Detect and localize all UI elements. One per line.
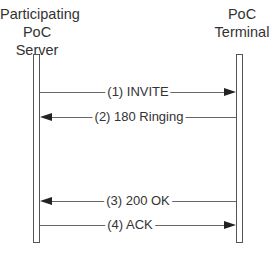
entity-label-line-2: Terminal [210, 23, 274, 41]
lifeline-server [33, 54, 40, 243]
arrow-left-icon [40, 113, 52, 121]
message-label: (1) INVITE [105, 85, 170, 99]
message-label: (2) 180 Ringing [93, 110, 186, 124]
entity-participating-poc-server: Participating PoC Server [0, 5, 74, 59]
lifeline-terminal [236, 54, 243, 243]
arrow-right-icon [224, 221, 236, 229]
message-label: (3) 200 OK [104, 194, 172, 208]
entity-poc-terminal: PoC Terminal [210, 5, 274, 41]
arrow-left-icon [40, 197, 52, 205]
entity-label-line-1: Participating [0, 5, 74, 23]
arrow-right-icon [224, 88, 236, 96]
message-label: (4) ACK [105, 218, 155, 232]
entity-label-line-1: PoC [210, 5, 274, 23]
